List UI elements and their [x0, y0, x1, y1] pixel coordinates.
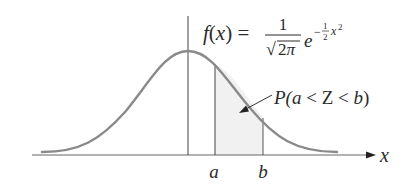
shaded-probability-region — [215, 64, 263, 155]
svg-text:−: − — [314, 25, 321, 39]
x-axis-label: x — [379, 144, 389, 166]
svg-text:1: 1 — [323, 21, 328, 31]
svg-text:2: 2 — [323, 32, 328, 42]
svg-text:f(x) =: f(x) = — [203, 21, 249, 45]
probability-label: P(a < Z < b) — [273, 87, 369, 109]
x-axis-arrow-icon — [366, 152, 376, 159]
b-label: b — [258, 161, 268, 182]
density-formula: f(x) = 1 √ 2π e − 1 2 x 2 — [203, 15, 343, 59]
svg-text:2π: 2π — [278, 40, 296, 59]
svg-text:e: e — [304, 30, 312, 51]
svg-text:2: 2 — [338, 22, 343, 32]
svg-text:1: 1 — [279, 15, 288, 34]
normal-distribution-diagram: f(x) = 1 √ 2π e − 1 2 x 2 P(a < Z < b) x… — [0, 0, 410, 196]
svg-text:√: √ — [266, 39, 276, 59]
a-label: a — [209, 161, 219, 182]
svg-text:x: x — [330, 24, 337, 38]
